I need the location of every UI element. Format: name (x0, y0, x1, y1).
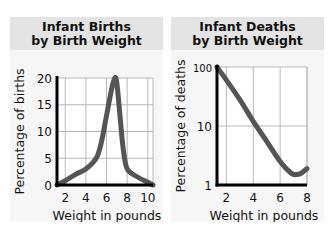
x-tick-label: 6 (276, 191, 284, 205)
y-tick-label: 10 (197, 120, 212, 134)
x-tick-label: 4 (249, 191, 257, 205)
x-tick-label: 8 (303, 191, 311, 205)
y-tick-label: 100 (193, 63, 212, 74)
x-axis-label: Weight in pounds (210, 208, 319, 222)
y-axis-label: Percentage of births (12, 68, 27, 194)
x-tick-label: 10 (140, 191, 155, 205)
y-tick-label: 0 (44, 179, 52, 193)
births-chart-panel: Infant Births by Birth Weight 2468100510… (10, 17, 163, 222)
x-tick-label: 2 (61, 191, 69, 205)
births-chart-svg: 24681005101520Weight in poundsPercentage… (10, 17, 163, 222)
x-tick-label: 2 (223, 191, 231, 205)
y-axis-label: Percentage of deaths (173, 60, 188, 193)
x-tick-label: 8 (123, 191, 131, 205)
x-axis-label: Weight in pounds (53, 208, 162, 222)
y-tick-label: 10 (37, 125, 52, 139)
y-tick-label: 1 (204, 179, 212, 193)
deaths-chart-panel: Infant Deaths by Birth Weight 2468110100… (171, 17, 324, 222)
y-tick-label: 15 (37, 98, 52, 112)
x-tick-label: 4 (82, 191, 90, 205)
y-tick-label: 20 (37, 72, 52, 86)
deaths-chart-svg: 2468110100Weight in poundsPercentage of … (171, 17, 324, 222)
y-tick-label: 5 (44, 152, 52, 166)
x-tick-label: 6 (103, 191, 111, 205)
